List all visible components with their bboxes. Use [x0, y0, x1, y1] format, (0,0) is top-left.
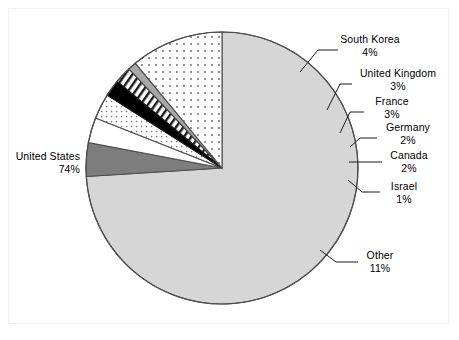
pie-label-other-value: 11%	[355, 262, 405, 275]
pie-label-south-korea-value: 4%	[333, 46, 407, 59]
pie-label-united-states: United States 74%	[4, 150, 80, 175]
pie-label-united-kingdom-name: United Kingdom	[348, 67, 448, 80]
pie-label-south-korea-name: South Korea	[333, 33, 407, 46]
pie-label-germany-name: Germany	[373, 121, 443, 134]
pie-label-germany: Germany 2%	[373, 121, 443, 146]
pie-label-united-states-name: United States	[4, 150, 80, 163]
pie-label-other: Other 11%	[355, 249, 405, 274]
pie-label-other-name: Other	[355, 249, 405, 262]
pie-label-south-korea: South Korea 4%	[333, 33, 407, 58]
pie-label-canada-name: Canada	[378, 149, 440, 162]
pie-label-canada-value: 2%	[378, 162, 440, 175]
pie-label-israel-value: 1%	[378, 193, 430, 206]
pie-label-france: France 3%	[360, 95, 424, 120]
pie-label-united-states-value: 74%	[4, 163, 80, 176]
pie-label-france-value: 3%	[360, 108, 424, 121]
pie-label-israel-name: Israel	[378, 180, 430, 193]
pie-label-united-kingdom: United Kingdom 3%	[348, 67, 448, 92]
pie-chart-figure: United States 74% South Korea 4% United …	[0, 0, 459, 340]
pie-label-united-kingdom-value: 3%	[348, 80, 448, 93]
pie-label-israel: Israel 1%	[378, 180, 430, 205]
pie-label-germany-value: 2%	[373, 134, 443, 147]
pie-slices-group	[86, 32, 358, 304]
pie-label-canada: Canada 2%	[378, 149, 440, 174]
pie-label-france-name: France	[360, 95, 424, 108]
